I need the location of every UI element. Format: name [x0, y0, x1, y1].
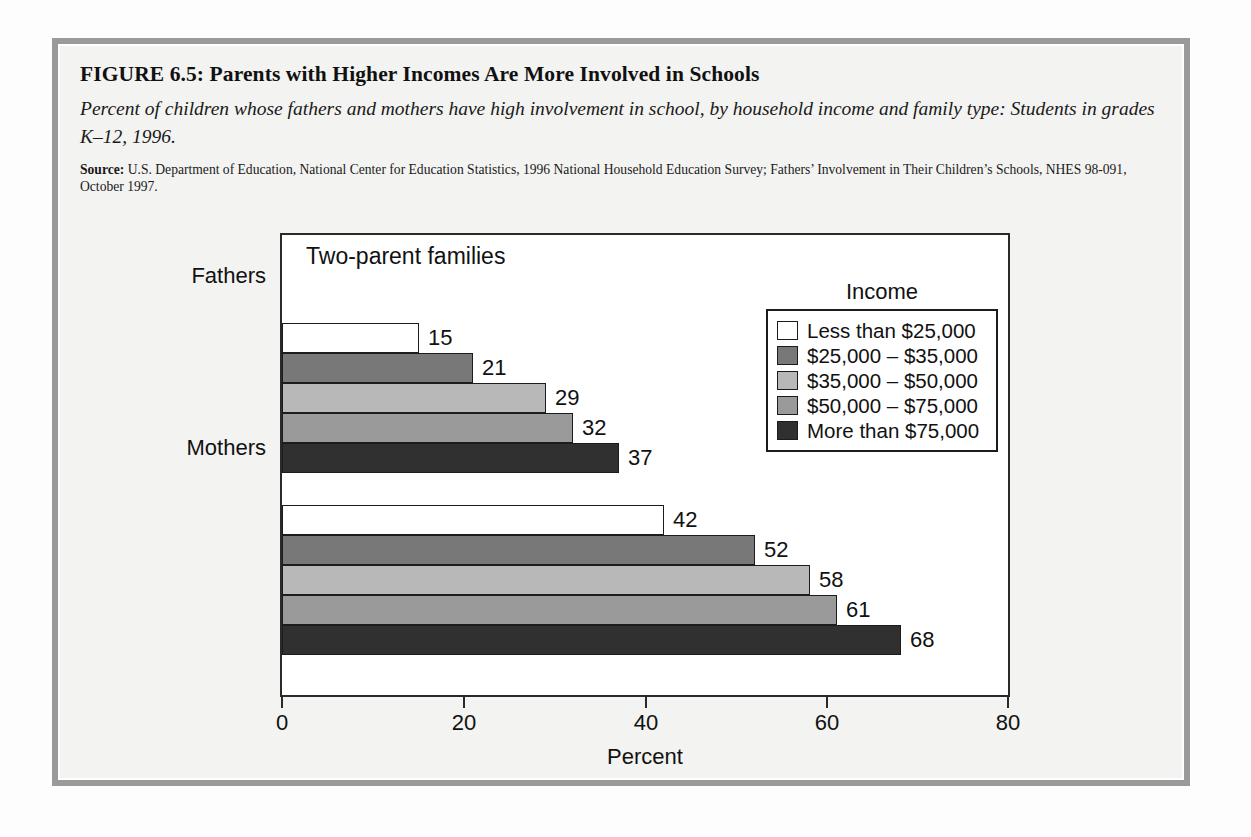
x-tick-mark	[826, 697, 828, 708]
legend-item-25k-35k[interactable]: $25,000 – $35,000	[777, 343, 986, 368]
figure-source: Source: U.S. Department of Education, Na…	[80, 161, 1158, 196]
bar-fathers-50k-75k	[282, 413, 573, 443]
bar-value-fathers-gt75k: 37	[628, 443, 652, 473]
bar-fathers-gt75k	[282, 443, 619, 473]
bar-value-mothers-35k-50k: 58	[819, 565, 843, 595]
legend-swatch-icon	[777, 346, 798, 365]
bar-value-mothers-gt75k: 68	[910, 625, 934, 655]
bar-fathers-25k-35k	[282, 353, 473, 383]
bar-mothers-50k-75k	[282, 595, 837, 625]
legend-item-label: $25,000 – $35,000	[807, 344, 978, 368]
legend-item-label: $35,000 – $50,000	[807, 369, 978, 393]
axis-group-label-mothers: Mothers	[158, 435, 266, 461]
bar-mothers-gt75k	[282, 625, 901, 655]
x-tick-label: 20	[452, 710, 476, 736]
legend-item-35k-50k[interactable]: $35,000 – $50,000	[777, 368, 986, 393]
legend-box: Less than $25,000 $25,000 – $35,000 $35,…	[766, 309, 998, 452]
legend-item-50k-75k[interactable]: $50,000 – $75,000	[777, 393, 986, 418]
legend-item-gt75k[interactable]: More than $75,000	[777, 418, 986, 443]
x-tick-mark	[645, 697, 647, 708]
axis-group-label-fathers: Fathers	[158, 263, 266, 289]
source-label: Source:	[80, 162, 124, 177]
legend-swatch-icon	[777, 396, 798, 415]
x-axis-title: Percent	[280, 744, 1010, 770]
x-axis-ticks: 0 20 40 60 80	[280, 697, 1010, 737]
bar-value-mothers-50k-75k: 61	[846, 595, 870, 625]
x-tick-mark	[281, 697, 283, 708]
bar-mothers-lt25k	[282, 505, 664, 535]
figure-header: FIGURE 6.5: Parents with Higher Incomes …	[80, 62, 1158, 195]
x-tick-label: 0	[276, 710, 288, 736]
bar-value-fathers-25k-35k: 21	[482, 353, 506, 383]
legend-title: Income	[766, 279, 998, 305]
x-tick-label: 60	[815, 710, 839, 736]
legend-item-label: Less than $25,000	[807, 319, 976, 343]
figure-frame: FIGURE 6.5: Parents with Higher Incomes …	[52, 38, 1190, 786]
chart-legend: Income Less than $25,000 $25,000 – $35,0…	[766, 279, 998, 452]
figure-title: FIGURE 6.5: Parents with Higher Incomes …	[80, 62, 1158, 87]
bar-mothers-35k-50k	[282, 565, 810, 595]
x-tick-label: 80	[996, 710, 1020, 736]
bar-value-fathers-35k-50k: 29	[555, 383, 579, 413]
source-text: U.S. Department of Education, National C…	[80, 162, 1127, 194]
legend-swatch-icon	[777, 421, 798, 440]
chart-plot-area: Two-parent families 15 21 29 32 37 42 52	[280, 233, 1010, 697]
x-tick-label: 40	[634, 710, 658, 736]
bar-value-mothers-25k-35k: 52	[764, 535, 788, 565]
page-background: FIGURE 6.5: Parents with Higher Incomes …	[0, 0, 1251, 837]
bar-mothers-25k-35k	[282, 535, 755, 565]
legend-swatch-icon	[777, 321, 798, 340]
bar-fathers-lt25k	[282, 323, 419, 353]
figure-subtitle: Percent of children whose fathers and mo…	[80, 95, 1158, 152]
bar-value-fathers-50k-75k: 32	[582, 413, 606, 443]
legend-item-label: $50,000 – $75,000	[807, 394, 978, 418]
bar-fathers-35k-50k	[282, 383, 546, 413]
x-tick-mark	[1007, 697, 1009, 708]
legend-item-label: More than $75,000	[807, 419, 979, 443]
x-tick-mark	[463, 697, 465, 708]
legend-item-lt25k[interactable]: Less than $25,000	[777, 318, 986, 343]
bar-value-mothers-lt25k: 42	[673, 505, 697, 535]
bar-value-fathers-lt25k: 15	[428, 323, 452, 353]
legend-swatch-icon	[777, 371, 798, 390]
